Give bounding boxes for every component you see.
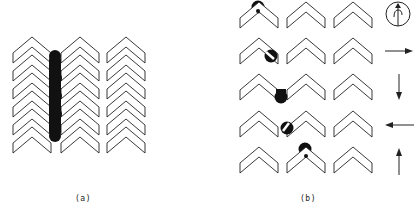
blob xyxy=(281,122,294,135)
arrow-down-icon xyxy=(396,74,402,100)
arrow-up-icon xyxy=(396,148,402,175)
row-4 xyxy=(240,111,372,137)
row-1 xyxy=(240,1,372,29)
chevron-column-3 xyxy=(107,37,145,153)
panel-b xyxy=(240,1,414,176)
black-bar xyxy=(49,50,62,142)
arrow-right-icon xyxy=(385,48,413,54)
indicators xyxy=(385,2,414,175)
panel-a xyxy=(13,37,145,153)
row-5 xyxy=(240,143,372,174)
row-3 xyxy=(240,74,372,104)
chevron-column-1 xyxy=(13,37,51,153)
row-2 xyxy=(240,38,372,64)
figure-canvas xyxy=(0,0,418,213)
arrow-left-icon xyxy=(385,122,414,128)
rotation-circle-icon xyxy=(386,2,410,26)
panel-a-label: (a) xyxy=(75,194,91,203)
panel-b-label: (b) xyxy=(300,194,316,203)
chevron-column-2 xyxy=(61,37,99,153)
